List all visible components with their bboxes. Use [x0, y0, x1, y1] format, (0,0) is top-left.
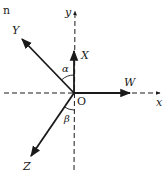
vector-x-label: X: [80, 49, 90, 62]
alpha-label: α: [62, 63, 69, 74]
partial-text: n: [3, 4, 10, 17]
beta-label: β: [63, 113, 70, 124]
origin-label: O: [77, 95, 86, 108]
y-axis-label: y: [64, 6, 72, 19]
force-vector-diagram: n x y X W Y Z α β O: [0, 0, 164, 172]
vector-y-label: Y: [12, 24, 21, 37]
beta-angle-arc: [65, 107, 75, 110]
vector-z-label: Z: [22, 160, 31, 172]
alpha-angle-arc: [62, 75, 75, 80]
vector-w-label: W: [124, 76, 137, 89]
x-axis-label: x: [156, 96, 163, 109]
vector-z-arrow: [31, 93, 74, 156]
